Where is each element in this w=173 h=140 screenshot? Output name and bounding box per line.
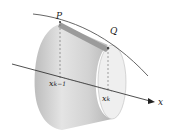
label-axis-x: x [158,98,163,107]
frustum-end-face [98,45,126,119]
label-xk-1-sub: k−1 [54,80,66,87]
label-q: Q [110,27,117,36]
point-q [107,47,109,49]
axis-arrow-icon [148,98,155,104]
label-xk: xk [102,95,110,103]
label-xk-1: xk−1 [49,80,66,88]
frustum-diagram [0,0,173,140]
label-xk-sub: k [107,95,111,102]
point-p [59,21,61,23]
label-p: P [56,12,62,21]
